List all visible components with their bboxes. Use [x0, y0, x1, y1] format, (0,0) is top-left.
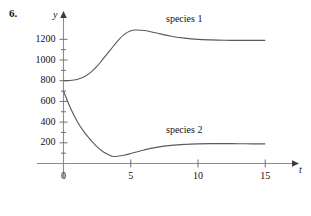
x-axis-label: t [299, 164, 302, 175]
problem-number: 6. [9, 7, 17, 19]
curve-annotation-species-1: species 1 [166, 13, 202, 24]
y-tick-label: 200 [22, 136, 56, 147]
y-axis-label: y [53, 9, 57, 20]
x-tick-label: 10 [188, 170, 208, 181]
x-tick-label: 0 [54, 170, 74, 181]
x-tick-label: 5 [121, 170, 141, 181]
y-tick-label: 1000 [22, 54, 56, 65]
curve-species-2 [64, 91, 266, 156]
y-tick-label: 600 [22, 95, 56, 106]
x-tick-label: 15 [255, 170, 275, 181]
y-tick-label: 1200 [22, 33, 56, 44]
curve-annotation-species-2: species 2 [166, 124, 202, 135]
figure-container: 6. y t species 1 species 2 2004006008001… [0, 0, 311, 216]
y-tick-label: 800 [22, 74, 56, 85]
y-tick-label: 400 [22, 116, 56, 127]
x-axis-arrow-icon [292, 160, 299, 167]
y-axis-arrow-icon [60, 11, 67, 18]
curve-species-1 [64, 30, 266, 81]
